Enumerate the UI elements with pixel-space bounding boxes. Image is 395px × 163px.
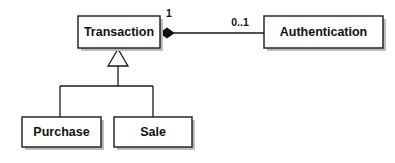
multiplicity-label-source: 1 — [166, 7, 172, 19]
uml-diagram-canvas: Transaction Authentication Purchase Sale… — [0, 0, 395, 163]
class-name-transaction: Transaction — [84, 25, 154, 39]
uml-class-diagram: Transaction Authentication Purchase Sale… — [0, 0, 395, 163]
class-box-purchase[interactable]: Purchase — [22, 117, 104, 150]
class-name-authentication: Authentication — [280, 25, 368, 39]
generalization-triangle-icon — [108, 49, 128, 66]
generalization-relationship-group — [60, 49, 153, 117]
class-box-transaction[interactable]: Transaction — [78, 16, 163, 51]
class-box-sale[interactable]: Sale — [114, 117, 195, 150]
class-name-sale: Sale — [140, 125, 166, 139]
multiplicity-label-target: 0..1 — [231, 16, 249, 28]
composition-relationship-transaction-authentication — [160, 28, 264, 38]
class-box-authentication[interactable]: Authentication — [264, 16, 386, 51]
class-name-purchase: Purchase — [33, 125, 89, 139]
